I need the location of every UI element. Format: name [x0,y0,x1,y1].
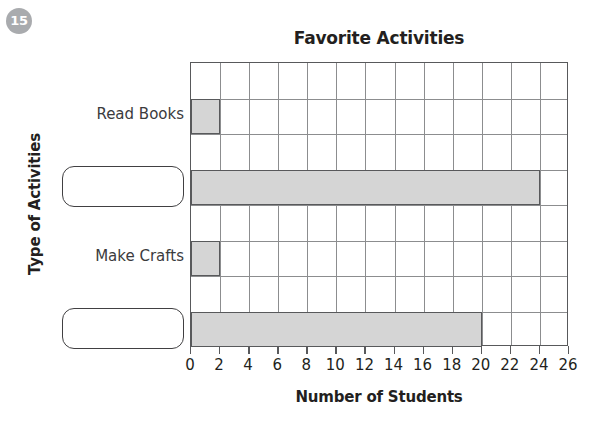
horizontal-gridline [191,205,567,206]
x-axis-tick [248,346,249,354]
category-answer-box[interactable] [62,308,184,349]
category-answer-box[interactable] [62,166,184,207]
plot-area [190,62,568,346]
category-label: Read Books [4,105,184,123]
x-axis-tick [481,346,482,354]
vertical-gridline [540,63,541,345]
x-axis-tick [306,346,307,354]
bar [191,170,540,206]
x-axis-tick [394,346,395,354]
x-axis-tick [277,346,278,354]
x-axis-tick [568,346,569,354]
bar [191,241,220,277]
x-axis-tick [510,346,511,354]
x-axis-tick-label: 26 [548,356,588,374]
x-axis-tick [219,346,220,354]
bar [191,99,220,135]
x-axis-tick [423,346,424,354]
chart-title: Favorite Activities [190,28,568,48]
bar [191,312,482,348]
horizontal-gridline [191,276,567,277]
x-axis-tick [364,346,365,354]
category-label: Make Crafts [4,247,184,265]
x-axis-tick [190,346,191,354]
question-number-badge: 15 [6,8,32,34]
x-axis-tick [452,346,453,354]
horizontal-gridline [191,134,567,135]
x-axis-tick [539,346,540,354]
x-axis-title: Number of Students [190,388,568,406]
x-axis-tick [335,346,336,354]
horizontal-gridline [191,241,567,242]
horizontal-gridline [191,99,567,100]
